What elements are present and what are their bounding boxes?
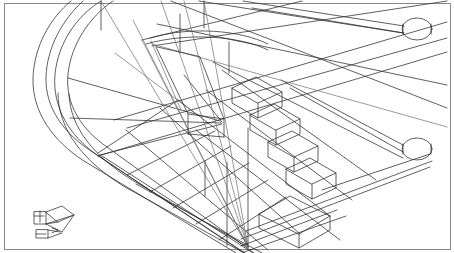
ucs-plane-diagonal	[46, 215, 74, 224]
stair-stringer-group	[126, 70, 376, 250]
newel-cap-group	[402, 18, 432, 160]
winder-tread-2	[70, 118, 221, 123]
step-riser-4	[286, 169, 312, 199]
stringer-lower-edge	[160, 108, 300, 234]
floor-line-e	[241, 210, 337, 246]
step-side-4	[312, 173, 336, 199]
right-rail-mid-b	[290, 88, 403, 152]
floor-grid-group	[102, 130, 346, 253]
right-rail-top-c	[199, 1, 403, 33]
step-tread-4	[286, 158, 336, 184]
ucs-axis-icon	[34, 206, 74, 238]
right-rail-bottom-c	[241, 167, 430, 239]
right-rail-mid-c	[213, 62, 403, 158]
landing-edge-upper-long	[152, 1, 447, 46]
rail-top-inner-curve	[46, 1, 244, 253]
stringer-top-flange-2	[222, 70, 376, 180]
step-tread-3	[268, 131, 318, 157]
staircase-wireframe-svg	[0, 0, 454, 253]
right-rail-top-a	[243, 1, 404, 26]
handrail-curve-group	[33, 1, 254, 253]
projection-line-2	[184, 1, 248, 247]
winder-tread-7	[150, 146, 231, 192]
ucs-box-lower-link-2	[48, 233, 62, 238]
step-tread-1	[232, 77, 282, 103]
drawing-canvas: Curved Staircase Isometric Wireframe UCS	[0, 0, 454, 253]
right-rail-bottom-b	[246, 161, 432, 231]
floor-line-a	[102, 156, 253, 253]
newel-cap-upper-right	[402, 18, 432, 40]
newel-cap-lower-right	[402, 138, 432, 160]
